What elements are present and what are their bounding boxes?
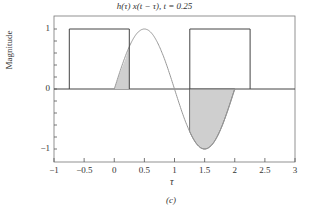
x-tick-label: 0.5 — [136, 165, 152, 175]
x-tick-label: −1 — [46, 165, 62, 175]
x-tick-label: 2.5 — [257, 165, 273, 175]
y-tick-label: −1 — [36, 143, 50, 153]
x-tick-label: 3 — [287, 165, 303, 175]
x-tick-label: 1.5 — [197, 165, 213, 175]
x-tick-label: −0.5 — [76, 165, 92, 175]
x-tick-label: 2 — [227, 165, 243, 175]
pulse-2 — [190, 29, 250, 89]
shaded-negative-region — [190, 89, 235, 149]
x-tick-label: 1 — [167, 165, 183, 175]
y-tick-label: 0 — [36, 83, 50, 93]
y-tick-label: 1 — [36, 23, 50, 33]
x-tick-label: 0 — [106, 165, 122, 175]
